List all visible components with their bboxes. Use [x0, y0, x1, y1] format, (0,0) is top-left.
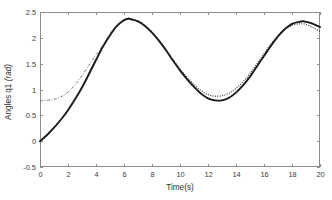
- x-tick-label: 0: [38, 170, 42, 179]
- y-tick-label: 1: [32, 86, 36, 95]
- curve-reference-trajectory: [40, 19, 320, 142]
- chart-figure: 02468101214161820 -0.500.511.522.5 Time(…: [0, 0, 332, 200]
- x-tick-label: 4: [94, 170, 98, 179]
- x-axis-tick-labels: 02468101214161820: [38, 170, 324, 179]
- y-tick-label: 2: [32, 34, 36, 43]
- y-axis-label-group: Angles q1 (rad): [4, 64, 13, 120]
- y-tick-label: -0.5: [23, 163, 36, 172]
- x-axis-label: Time(s): [166, 183, 194, 192]
- x-tick-label: 20: [316, 170, 324, 179]
- angles-q1-line-chart: 02468101214161820 -0.500.511.522.5 Time(…: [0, 0, 332, 200]
- x-tick-label: 10: [176, 170, 184, 179]
- x-tick-label: 18: [288, 170, 296, 179]
- data-curves: [40, 18, 320, 141]
- x-tick-label: 6: [122, 170, 126, 179]
- x-tick-label: 2: [66, 170, 70, 179]
- y-tick-label: 1.5: [26, 60, 36, 69]
- y-tick-label: 0: [32, 137, 36, 146]
- x-tick-label: 14: [232, 170, 240, 179]
- x-tick-label: 12: [204, 170, 212, 179]
- y-axis-tick-labels: -0.500.511.522.5: [23, 8, 36, 172]
- y-tick-label: 2.5: [26, 8, 36, 17]
- y-axis-label: Angles q1 (rad): [4, 64, 13, 120]
- x-tick-label: 8: [150, 170, 154, 179]
- x-tick-label: 16: [260, 170, 268, 179]
- y-tick-label: 0.5: [26, 111, 36, 120]
